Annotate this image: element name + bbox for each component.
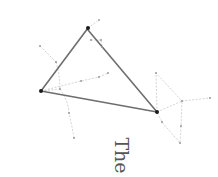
minor-star [39, 45, 41, 47]
minor-star [68, 112, 70, 114]
star-top [86, 26, 90, 30]
minor-star [101, 46, 103, 48]
constellation-line [88, 20, 99, 28]
minor-star [55, 61, 57, 63]
minor-star [161, 121, 163, 123]
minor-star [179, 142, 181, 144]
minor-star [73, 137, 75, 139]
minor-star [107, 72, 109, 74]
minor-star [59, 88, 61, 90]
star-chart [0, 0, 218, 177]
minor-star [180, 125, 182, 127]
minor-star [90, 39, 92, 41]
star-right [155, 110, 159, 114]
asterism-edge-top-right [88, 30, 157, 112]
constellation-line [156, 73, 210, 112]
constellation-line [40, 46, 56, 62]
constellation-line [41, 73, 108, 91]
star-left [39, 89, 43, 93]
minor-star [98, 76, 100, 78]
minor-star [181, 100, 183, 102]
constellation-lines [40, 20, 210, 143]
asterism-edge-left-right [41, 91, 157, 112]
minor-star [100, 39, 102, 41]
minor-star [209, 97, 211, 99]
constellation-line [41, 89, 60, 91]
caption-text: The [112, 137, 131, 173]
constellation-line [157, 101, 182, 143]
minor-star [80, 80, 82, 82]
minor-stars [39, 19, 211, 144]
minor-star [98, 19, 100, 21]
minor-star [155, 72, 157, 74]
